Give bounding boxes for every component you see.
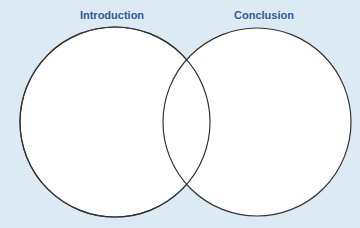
venn-diagram [0, 0, 360, 228]
label-conclusion: Conclusion [234, 9, 294, 21]
circle-conclusion [163, 28, 351, 216]
label-introduction: Introduction [80, 9, 144, 21]
